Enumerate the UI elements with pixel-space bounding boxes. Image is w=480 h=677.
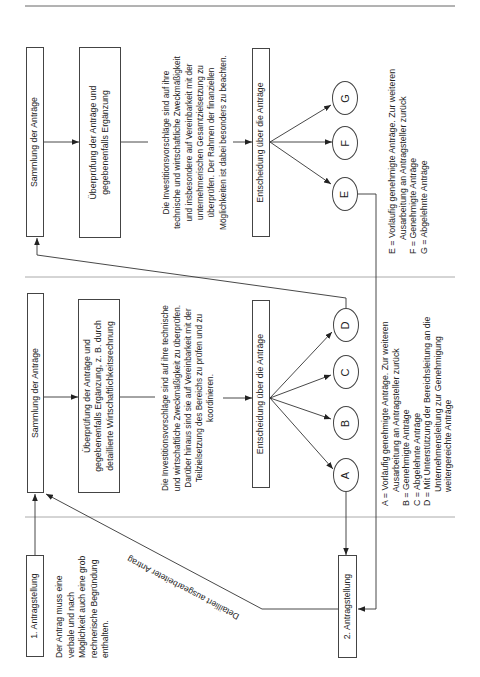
middle-review-label-line: detaillierte Wirtschaftlichkeitsrechnung (105, 321, 117, 471)
diagram-page: Sammlung der Anträge Überprüfung der Ant… (0, 0, 480, 677)
middle-review-label-line: Überprüfung der Anträge und (82, 339, 94, 453)
outcome-circle-g: G (332, 81, 358, 115)
upper-collection-box: Sammlung der Anträge (26, 47, 44, 237)
middle-review-note: Die Investitionsvorschläge sind auf ihre… (160, 298, 217, 498)
note-line: Die Investitionsvorschläge sind auf ihre (161, 71, 172, 215)
outcome-letter: A (341, 471, 352, 478)
legend-line: D = Mit Unterstützung der Bereichsleitun… (422, 291, 433, 506)
note-line: unternehmerischen Gesamtzielsetzung zu (195, 65, 206, 220)
note-line: enthalten. (100, 548, 112, 658)
middle-collection-label: Sammlung der Anträge (30, 348, 42, 438)
upper-decision-box: Entscheidung über die Anträge (252, 48, 270, 237)
legend-line: E = Vorläufig genehmigte Anträge. Zur we… (387, 44, 398, 254)
note-line: Die Investitionsvorschläge sind auf ihre… (160, 305, 171, 491)
arrow-decision-to-g (270, 105, 331, 142)
note-line: Teilzielsetzung des Bereichs zu prüfen u… (194, 314, 205, 482)
upper-review-label-line: Überprüfung der Anträge und (88, 86, 100, 200)
legend-line-continuation: weitergereichte Anträge (443, 291, 454, 506)
note-line: und wirtschaftliche Zweckmäßigkeit zu üb… (172, 305, 183, 491)
middle-decision-box: Entscheidung über die Anträge (252, 300, 270, 488)
outcome-letter: G (340, 94, 351, 103)
outcome-letter: F (339, 140, 350, 147)
outcome-letter: B (341, 419, 352, 426)
legend-line: C = Abgelehnte Anträge (412, 291, 423, 506)
legend-line: B = Genehmigte Anträge (401, 291, 412, 506)
arrow-decision-to-d (270, 332, 332, 398)
legend-line: F = Genehmigte Anträge (408, 44, 419, 254)
arrow-e-to-second-application (358, 194, 376, 609)
middle-review-label-line: gegebenenfalls Ergänzung, z. B. durch (93, 320, 105, 472)
middle-review-box: Überprüfung der Anträge und gegebenenfal… (78, 299, 120, 493)
legend-line-continuation: Unternehmensleitung zur Genehmigung (433, 291, 444, 506)
upper-collection-label: Sammlung der Anträge (29, 97, 41, 187)
legend-line: A = Vorläufig genehmigte Anträge. Zur we… (380, 291, 391, 506)
outcome-circle-f: F (332, 126, 358, 160)
first-application-note: Der Antrag muss eine verbale und nach Mö… (54, 548, 112, 658)
note-line: koordinieren. (205, 374, 216, 422)
note-line: Der Antrag muss eine (54, 548, 66, 658)
second-application-label: 2. Antragstellung (342, 574, 354, 640)
note-line: Möglichkeiten ist dabei besonders zu bea… (218, 55, 229, 230)
note-line: Möglichkeit auch eine grob (77, 548, 89, 658)
outcome-circle-e: E (332, 177, 358, 211)
upper-decision-label: Entscheidung über die Anträge (255, 82, 267, 202)
outcome-circle-a: A (333, 458, 359, 492)
upper-review-box: Überprüfung der Anträge und gegebenenfal… (79, 47, 121, 238)
upper-review-label-line: gegebenenfalls Ergänzung (100, 90, 112, 195)
legend-line-continuation: Ausarbeitung an Antragsteller zurück (398, 44, 409, 254)
outcome-circle-b: B (333, 406, 359, 440)
outcome-circle-c: C (333, 355, 359, 389)
note-line: rechnerische Begründung (89, 548, 101, 658)
middle-decision-label: Entscheidung über die Anträge (255, 334, 267, 454)
legend-line-continuation: Ausarbeitung an Antragsteller zurück (391, 291, 402, 506)
outcome-circle-d: D (333, 308, 359, 342)
first-application-box: 1. Antragstellung (26, 555, 44, 657)
arrow-decision-to-c (270, 375, 331, 398)
note-line: verbale und nach (66, 548, 78, 658)
middle-legend: A = Vorläufig genehmigte Anträge. Zur we… (380, 291, 454, 506)
second-application-box: 2. Antragstellung (338, 555, 357, 658)
note-line: Darüber hinaus sind sie auf Vereinbarkei… (183, 308, 194, 487)
legend-line: G = Abgelehnte Anträge (419, 44, 430, 254)
note-line: überprüfen. Der Rahmen der finanziellen (206, 68, 217, 218)
outcome-letter: E (340, 190, 351, 197)
upper-legend: E = Vorläufig genehmigte Anträge. Zur we… (387, 44, 430, 254)
outcome-letter: D (340, 321, 351, 329)
note-line: und insbesondere auf Vereinbarkeit mit d… (184, 63, 195, 221)
upper-review-note: Die Investitionsvorschläge sind auf ihre… (161, 45, 229, 240)
outcome-letter: C (340, 368, 351, 376)
middle-collection-box: Sammlung der Anträge (27, 293, 44, 493)
note-line: technische und wirtschaftliche Zweckmäßi… (172, 56, 183, 228)
first-application-label: 1. Antragstellung (29, 573, 41, 639)
arrow-decision-to-e (270, 142, 331, 184)
